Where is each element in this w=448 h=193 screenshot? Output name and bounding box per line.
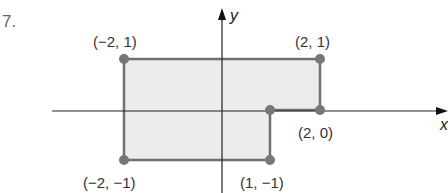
label-point-1-neg1: (1, −1) — [240, 175, 284, 190]
label-point-2-1: (2, 1) — [295, 34, 330, 49]
x-axis-label: x — [440, 117, 448, 133]
point-1-0 — [265, 105, 275, 115]
label-point-2-0: (2, 0) — [298, 125, 333, 140]
y-axis-arrow-icon — [218, 8, 226, 20]
x-axis-arrow-icon — [436, 107, 448, 115]
region-diagram — [0, 0, 448, 193]
point-neg2-neg1 — [119, 155, 129, 165]
label-point-neg2-neg1: (−2, −1) — [83, 175, 136, 190]
point-2-1 — [315, 54, 325, 64]
point-neg2-1 — [119, 54, 129, 64]
point-2-0 — [315, 105, 325, 115]
label-point-neg2-1: (−2, 1) — [93, 34, 137, 49]
y-axis-label: y — [230, 8, 238, 24]
point-1-neg1 — [265, 155, 275, 165]
